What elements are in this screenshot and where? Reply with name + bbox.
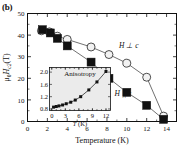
y-tick-label: 40 — [18, 32, 26, 40]
x-tick-label: 0 — [26, 125, 30, 133]
inset-y-tick-label: 2.0 — [40, 68, 48, 75]
x-tick-label: 2 — [46, 125, 50, 133]
x-tick-label: 4 — [65, 125, 69, 133]
data-point-filled-square — [38, 26, 46, 34]
inset-data-point — [74, 99, 77, 102]
data-point-filled-square — [53, 34, 61, 42]
inset-data-point — [57, 104, 60, 107]
data-point-open-circle — [123, 59, 131, 67]
x-tick-label: 8 — [105, 125, 109, 133]
inset-x-tick-label: 9 — [91, 112, 94, 119]
x-tick-label: 12 — [143, 125, 151, 133]
hc2-vs-temperature-chart: 0246810121401020304050Temperature (K)μ₀H… — [0, 0, 183, 155]
y-tick-label: 10 — [18, 97, 26, 105]
inset-data-point — [52, 106, 55, 109]
inset-data-point — [61, 103, 64, 106]
inset-x-tick-label: 12 — [103, 112, 110, 119]
data-point-filled-square — [87, 58, 95, 66]
inset-data-point — [65, 102, 68, 105]
y-tick-label: 50 — [18, 10, 26, 18]
inset-data-point — [79, 95, 82, 98]
data-point-open-circle — [143, 73, 151, 81]
y-tick-label: 0 — [21, 118, 25, 126]
inset-data-point — [87, 88, 90, 91]
inset-x-tick-label: 0 — [50, 112, 53, 119]
series-annotation-0: H ⊥ c — [118, 41, 139, 50]
data-point-open-circle — [105, 51, 113, 59]
data-point-filled-square — [63, 42, 71, 50]
inset-y-tick-label: 1.2 — [40, 93, 48, 100]
inset-x-tick-label: 3 — [64, 112, 67, 119]
data-point-filled-square — [143, 101, 151, 109]
x-tick-label: 10 — [123, 125, 131, 133]
series-annotation-1: H || c — [114, 89, 132, 98]
inset-data-point — [69, 101, 72, 104]
inset-data-point — [104, 70, 107, 73]
data-point-open-circle — [87, 43, 95, 51]
x-axis-label: Temperature (K) — [75, 136, 129, 145]
y-axis-label: μ₀Hc2(T) — [2, 53, 12, 82]
inset-y-tick-label: 1.6 — [40, 81, 49, 88]
x-tick-label: 14 — [163, 125, 171, 133]
figure-panel-b: (b) 0246810121401020304050Temperature (K… — [0, 0, 183, 155]
inset-data-point — [55, 105, 58, 108]
inset-data-point — [95, 80, 98, 83]
data-point-filled-square — [160, 115, 168, 123]
inset-x-tick-label: 6 — [77, 112, 81, 119]
y-tick-label: 30 — [18, 53, 26, 61]
y-tick-label: 20 — [18, 75, 26, 83]
inset-x-axis-label: T (K) — [73, 120, 87, 128]
inset-y-tick-label: 0.8 — [40, 105, 48, 112]
inset-title: Anisotropy — [64, 70, 96, 78]
